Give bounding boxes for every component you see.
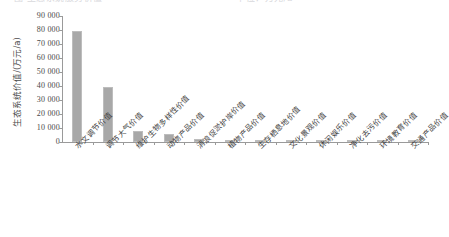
y-tick-label: 30 000	[37, 96, 60, 104]
y-axis-tick-labels: 90 00080 00070 00060 00050 00040 00030 0…	[16, 13, 60, 143]
y-tick-label: 90 000	[37, 12, 60, 20]
y-tick-label: 70 000	[37, 40, 60, 48]
bar	[72, 31, 82, 142]
y-tick-mark	[59, 58, 62, 59]
y-tick-mark	[59, 128, 62, 129]
cropped-caption-right: 单位：万元/a	[236, 0, 293, 4]
y-tick-label: 50 000	[37, 68, 60, 76]
y-tick-label: 80 000	[37, 26, 60, 34]
y-tick-mark	[59, 44, 62, 45]
y-tick-mark	[59, 30, 62, 31]
cropped-caption-left: 图 生态系统服务价值	[14, 0, 103, 4]
y-tick-label: 60 000	[37, 54, 60, 62]
y-tick-label: 20 000	[37, 110, 60, 118]
y-tick-label: 10 000	[37, 124, 60, 132]
y-tick-mark	[59, 114, 62, 115]
y-tick-mark	[59, 16, 62, 17]
y-tick-mark	[59, 86, 62, 87]
cropped-caption: 图 生态系统服务价值 单位：万元/a	[0, 0, 436, 8]
y-tick-label: 40 000	[37, 82, 60, 90]
y-tick-mark	[59, 72, 62, 73]
x-axis-tick-labels: 水文调节价值调节大气价值维护生物多样性价值动物产品价值消浪促淤护岸价值植物产品价…	[0, 143, 436, 237]
y-tick-mark	[59, 100, 62, 101]
